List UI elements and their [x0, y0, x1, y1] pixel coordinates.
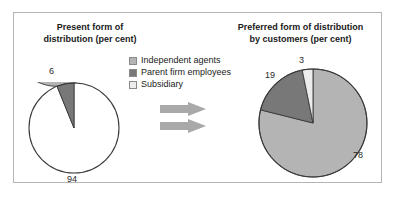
- right-chart-title: Preferred form of distribution by custom…: [223, 22, 378, 45]
- legend-swatch-independent-agents: [129, 57, 137, 65]
- legend-item-parent-firm-employees: Parent firm employees: [129, 67, 249, 78]
- right-pie-label-78: 78: [353, 150, 363, 160]
- arrow-right-icon-bottom: [160, 119, 206, 133]
- legend-label-independent-agents: Independent agents: [141, 55, 221, 66]
- left-pie-svg: [28, 82, 120, 174]
- right-chart-title-line1: Preferred form of distribution: [223, 22, 378, 34]
- legend-swatch-parent-firm-employees: [129, 69, 137, 77]
- left-pie-label-94: 94: [67, 174, 77, 184]
- legend: Independent agents Parent firm employees…: [129, 55, 249, 91]
- right-pie-label-19: 19: [265, 70, 275, 80]
- left-pie-label-6: 6: [49, 66, 54, 76]
- left-chart-title: Present form of distribution (per cent): [22, 22, 158, 45]
- figure-root: Present form of distribution (per cent) …: [0, 0, 400, 199]
- left-chart-title-line1: Present form of: [22, 22, 158, 34]
- left-pie-slice-parent-firm-employees: [57, 83, 74, 128]
- legend-item-subsidiary: Subsidiary: [129, 79, 249, 90]
- arrows-svg: [160, 102, 220, 136]
- right-pie-label-3: 3: [299, 55, 304, 65]
- legend-swatch-subsidiary: [129, 81, 137, 89]
- right-chart-title-line2: by customers (per cent): [223, 34, 378, 46]
- legend-item-independent-agents: Independent agents: [129, 55, 249, 66]
- arrow-right-icon-top: [160, 102, 206, 116]
- legend-label-parent-firm-employees: Parent firm employees: [141, 67, 231, 78]
- transition-arrows: [160, 102, 220, 136]
- left-chart-title-line2: distribution (per cent): [22, 34, 158, 46]
- right-pie-svg: [258, 68, 368, 178]
- right-pie-chart: 3 19 78: [258, 68, 368, 178]
- left-pie-chart: 6 94: [28, 82, 120, 174]
- legend-label-subsidiary: Subsidiary: [141, 79, 183, 90]
